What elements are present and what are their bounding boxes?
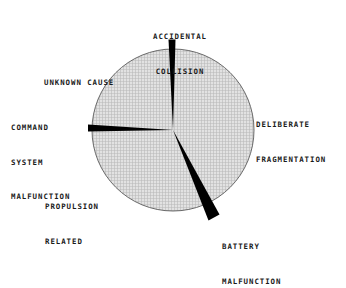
pie-label-battery-malfunction-line2: MALFUNCTION — [222, 276, 281, 288]
pie-label-unknown-cause-line1: UNKNOWN CAUSE — [44, 77, 114, 89]
pie-label-propulsion-related-line2: RELATED — [45, 236, 99, 248]
pie-label-accidental-collision-line2: COLLISION — [125, 66, 235, 78]
pie-label-propulsion-related: PROPULSION RELATED — [45, 178, 99, 270]
pie-label-battery-malfunction-line1: BATTERY — [222, 241, 281, 253]
pie-label-deliberate-fragmentation: DELIBERATE FRAGMENTATION — [256, 96, 326, 188]
pie-label-accidental-collision-line1: ACCIDENTAL — [125, 31, 235, 43]
pie-label-propulsion-related-line1: PROPULSION — [45, 201, 99, 213]
pie-label-command-system-malfunction-line1: COMMAND — [11, 122, 70, 134]
pie-label-command-system-malfunction-line2: SYSTEM — [11, 157, 70, 169]
pie-label-deliberate-fragmentation-line1: DELIBERATE — [256, 119, 326, 131]
pie-label-accidental-collision: ACCIDENTAL COLLISION — [125, 8, 235, 100]
pie-label-deliberate-fragmentation-line2: FRAGMENTATION — [256, 154, 326, 166]
pie-label-battery-malfunction: BATTERY MALFUNCTION — [222, 218, 281, 288]
